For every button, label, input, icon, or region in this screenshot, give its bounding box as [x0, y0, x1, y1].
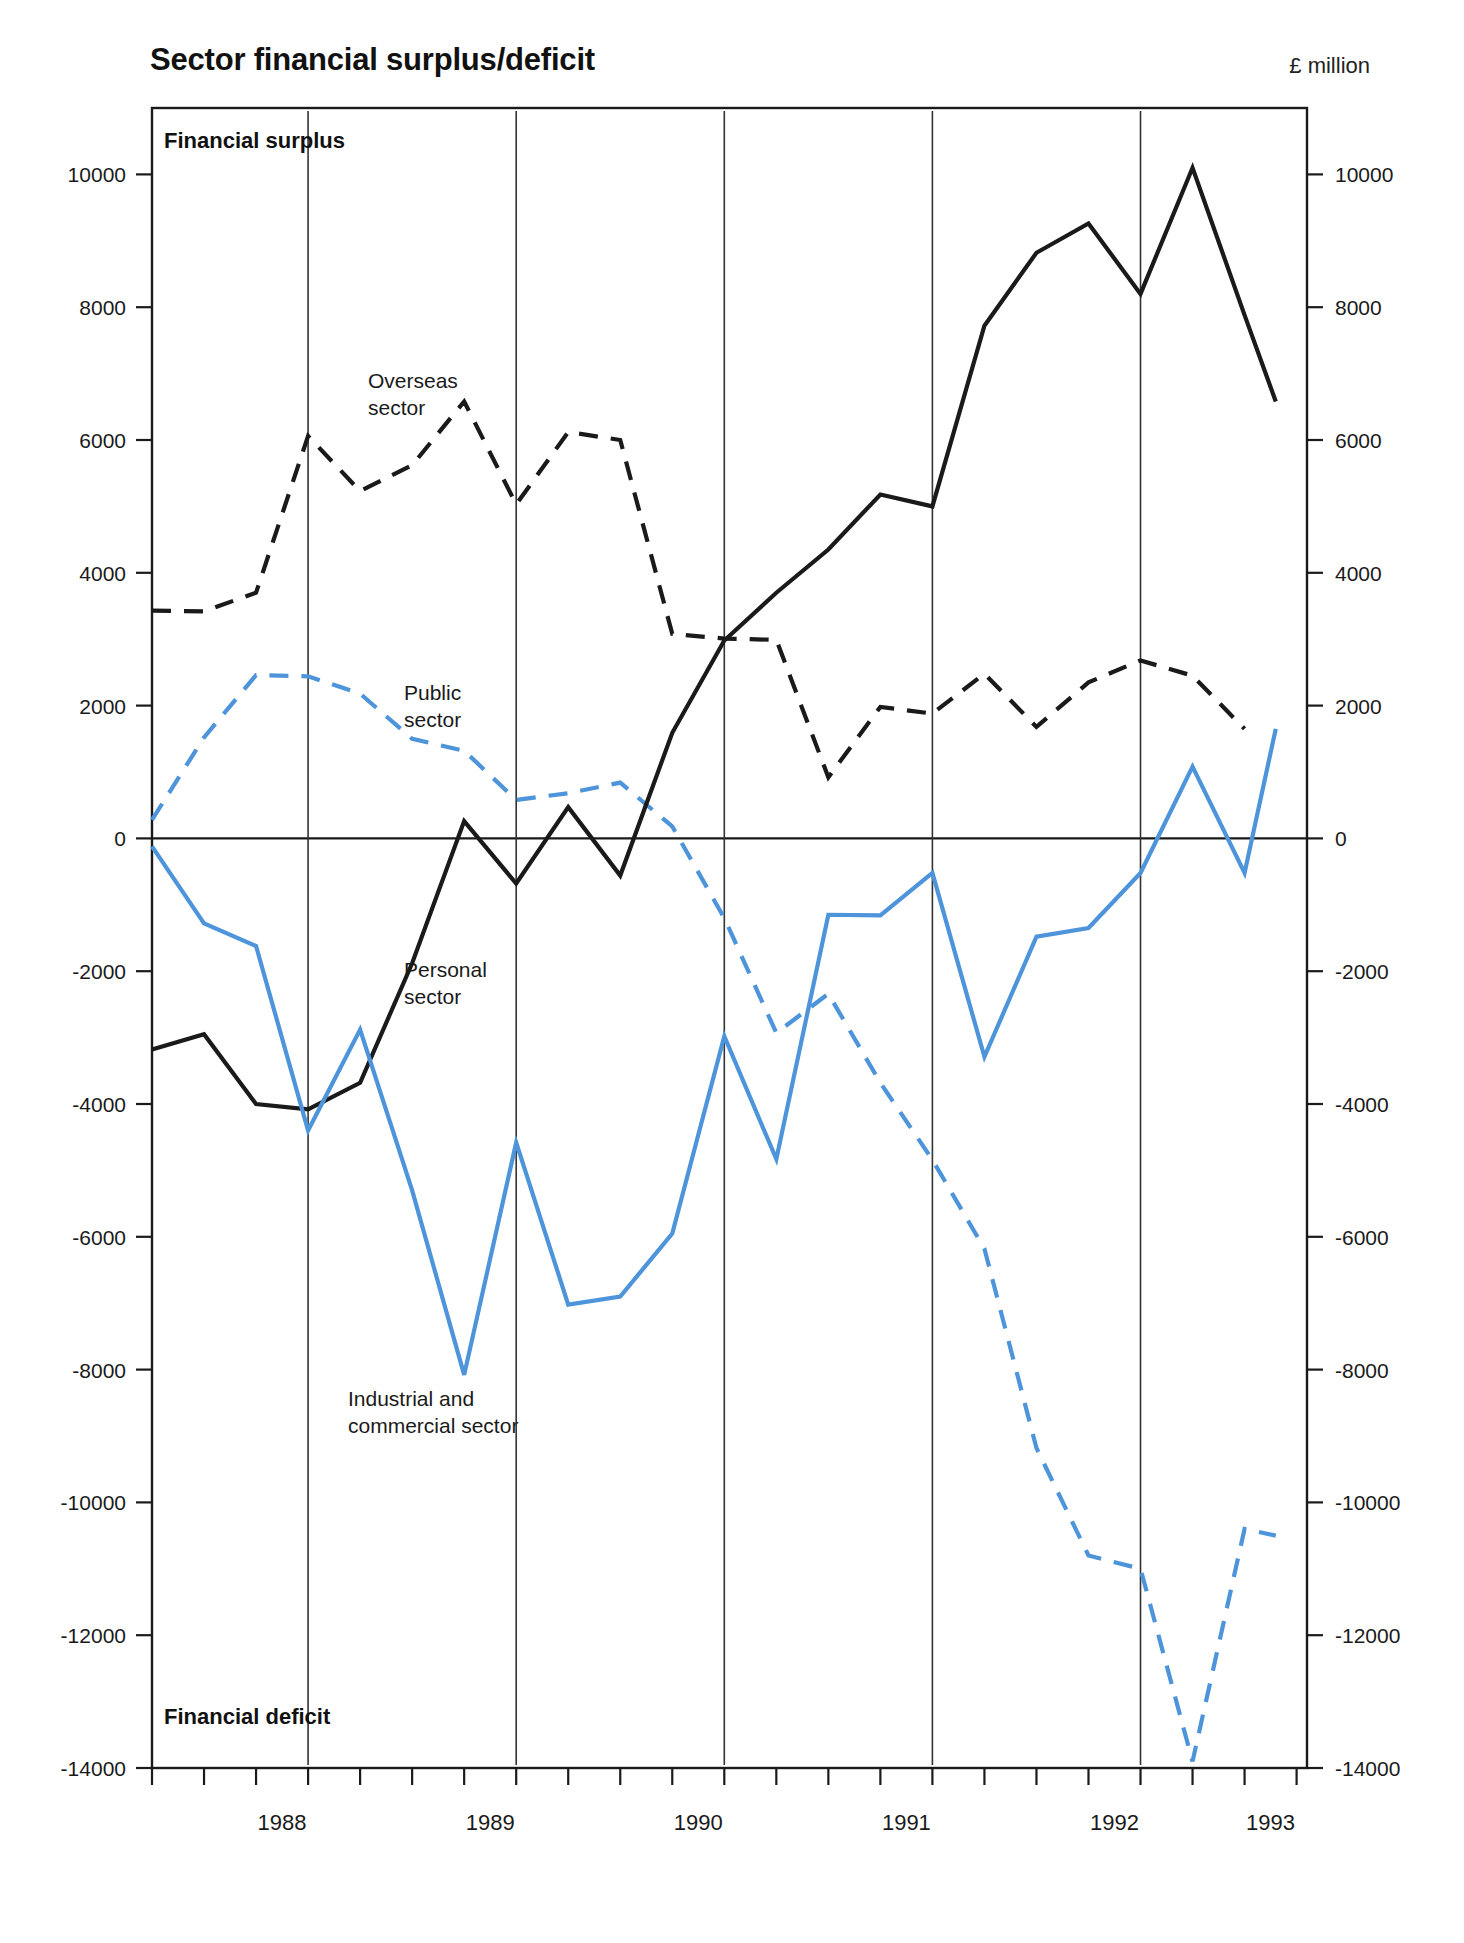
- financial-surplus-label: Financial surplus: [164, 128, 345, 153]
- line-chart: 1000010000800080006000600040004000200020…: [0, 0, 1464, 1943]
- y-tick-label-left: 10000: [68, 163, 126, 186]
- y-tick-label-left: -12000: [61, 1624, 126, 1647]
- y-tick-label-left: -8000: [72, 1359, 126, 1382]
- x-year-label: 1990: [674, 1810, 723, 1835]
- y-tick-label-left: -2000: [72, 960, 126, 983]
- y-tick-label-right: -10000: [1335, 1491, 1400, 1514]
- y-tick-label-left: -10000: [61, 1491, 126, 1514]
- y-tick-label-right: -8000: [1335, 1359, 1389, 1382]
- personal-sector-label: Personal: [404, 958, 487, 981]
- x-year-label: 1989: [466, 1810, 515, 1835]
- y-tick-label-right: -6000: [1335, 1226, 1389, 1249]
- y-tick-label-left: 2000: [79, 695, 126, 718]
- y-tick-label-right: -12000: [1335, 1624, 1400, 1647]
- chart-figure: Sector financial surplus/deficit £ milli…: [0, 0, 1464, 1943]
- y-tick-label-left: 8000: [79, 296, 126, 319]
- y-tick-label-right: 4000: [1335, 562, 1382, 585]
- series-personal-sector: [152, 168, 1276, 1110]
- public-sector-label: Public: [404, 681, 461, 704]
- y-tick-label-left: -6000: [72, 1226, 126, 1249]
- page-title: Sector financial surplus/deficit: [150, 42, 595, 78]
- x-year-label: 1991: [882, 1810, 931, 1835]
- y-tick-label-right: 10000: [1335, 163, 1393, 186]
- y-tick-label-right: 8000: [1335, 296, 1382, 319]
- plot-frame: [152, 108, 1307, 1768]
- y-tick-label-right: -14000: [1335, 1757, 1400, 1780]
- overseas-sector-label: Overseas: [368, 369, 458, 392]
- overseas-sector-label: sector: [368, 396, 425, 419]
- y-tick-label-left: 6000: [79, 429, 126, 452]
- y-tick-label-right: 2000: [1335, 695, 1382, 718]
- y-tick-label-left: 0: [114, 827, 126, 850]
- personal-sector-label: sector: [404, 985, 461, 1008]
- y-tick-label-right: -2000: [1335, 960, 1389, 983]
- x-year-label: 1992: [1090, 1810, 1139, 1835]
- industrial-commercial-sector-label: commercial sector: [348, 1414, 518, 1437]
- x-year-label: 1988: [258, 1810, 307, 1835]
- public-sector-label: sector: [404, 708, 461, 731]
- series-industrial-and-commercial-sector: [152, 729, 1276, 1375]
- y-tick-label-left: -14000: [61, 1757, 126, 1780]
- y-tick-label-right: 6000: [1335, 429, 1382, 452]
- y-tick-label-left: 4000: [79, 562, 126, 585]
- y-tick-label-right: -4000: [1335, 1093, 1389, 1116]
- series-overseas-sector: [152, 401, 1245, 777]
- y-tick-label-right: 0: [1335, 827, 1347, 850]
- x-year-label: 1993: [1246, 1810, 1295, 1835]
- financial-deficit-label: Financial deficit: [164, 1704, 331, 1729]
- y-tick-label-left: -4000: [72, 1093, 126, 1116]
- unit-label: £ million: [1289, 53, 1370, 79]
- industrial-commercial-sector-label: Industrial and: [348, 1387, 474, 1410]
